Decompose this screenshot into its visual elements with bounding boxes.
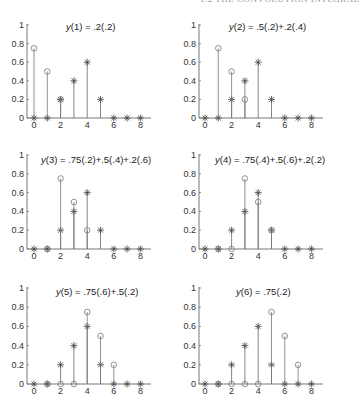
star-marker <box>57 361 64 368</box>
star-marker <box>241 342 248 349</box>
star-marker <box>31 381 38 388</box>
x-tick-label: 2 <box>58 386 63 396</box>
star-marker <box>84 59 91 66</box>
y-tick-label: 0.8 <box>183 169 196 179</box>
y-tick-label: 0.4 <box>183 341 196 351</box>
stem-plot-2: 00.20.40.60.8102468y(2) = .5(.2)+.2(.4) <box>183 20 323 130</box>
star-marker <box>97 227 104 234</box>
y-tick-label: 0.8 <box>183 302 196 312</box>
stem-plot-3: 00.20.40.60.8102468y(3) = .75(.2)+.5(.4)… <box>11 150 151 261</box>
star-marker <box>228 227 235 234</box>
y-tick-label: 1 <box>19 283 24 293</box>
x-tick-label: 4 <box>85 386 90 396</box>
star-marker <box>84 189 91 196</box>
star-marker <box>137 115 144 122</box>
x-tick-label: 4 <box>256 251 261 261</box>
y-tick-label: 0.4 <box>183 76 196 86</box>
stem-plot-6: 00.20.40.60.8102468y(6) = .75(.2) <box>183 283 323 396</box>
star-marker <box>228 361 235 368</box>
star-marker <box>110 115 117 122</box>
y-tick-label: 0.4 <box>11 206 24 216</box>
y-tick-label: 0 <box>191 244 196 254</box>
plot-title: y(3) = .75(.2)+.5(.4)+.2(.6) <box>40 154 151 165</box>
star-marker <box>31 246 38 253</box>
star-marker <box>124 381 131 388</box>
star-marker <box>137 246 144 253</box>
y-tick-label: 0.2 <box>183 94 196 104</box>
star-marker <box>241 77 248 84</box>
plot-title: y(1) = .2(.2) <box>65 21 115 32</box>
y-tick-label: 1 <box>191 20 196 30</box>
y-tick-label: 0 <box>19 244 24 254</box>
x-tick-label: 4 <box>85 120 90 130</box>
star-marker <box>124 246 131 253</box>
y-tick-label: 0.8 <box>11 302 24 312</box>
y-tick-label: 0.6 <box>11 57 24 67</box>
y-tick-label: 1 <box>191 150 196 160</box>
plot-title: y(5) = .75(.6)+.5(.2) <box>55 286 138 297</box>
x-tick-label: 4 <box>85 251 90 261</box>
star-marker <box>137 381 144 388</box>
star-marker <box>110 246 117 253</box>
star-marker <box>295 115 302 122</box>
y-tick-label: 0.2 <box>11 94 24 104</box>
y-tick-label: 0.8 <box>11 39 24 49</box>
y-tick-label: 0 <box>19 113 24 123</box>
y-tick-label: 0.6 <box>11 188 24 198</box>
plot-title: y(6) = .75(.2) <box>235 286 291 297</box>
y-tick-label: 0.8 <box>183 39 196 49</box>
y-tick-label: 0 <box>191 113 196 123</box>
y-tick-label: 1 <box>19 150 24 160</box>
y-tick-label: 0.8 <box>11 169 24 179</box>
y-tick-label: 0.2 <box>183 360 196 370</box>
x-tick-label: 2 <box>58 251 63 261</box>
x-tick-label: 2 <box>229 120 234 130</box>
star-marker <box>268 96 275 103</box>
stem-plot-5: 00.20.40.60.8102468y(5) = .75(.6)+.5(.2) <box>11 283 151 396</box>
star-marker <box>255 189 262 196</box>
y-tick-label: 0.6 <box>183 57 196 67</box>
star-marker <box>97 96 104 103</box>
stem-plot-1: 00.20.40.60.8102468y(1) = .2(.2) <box>11 20 151 130</box>
x-tick-label: 2 <box>229 386 234 396</box>
x-tick-label: 2 <box>229 251 234 261</box>
y-tick-label: 0.6 <box>183 188 196 198</box>
x-tick-label: 2 <box>58 120 63 130</box>
plot-title: y(4) = .75(.4)+.5(.6)+.2(.2) <box>214 154 325 165</box>
y-tick-label: 0.6 <box>183 321 196 331</box>
x-tick-label: 4 <box>256 120 261 130</box>
star-marker <box>255 323 262 330</box>
y-tick-label: 0.4 <box>11 76 24 86</box>
y-tick-label: 0.2 <box>183 225 196 235</box>
y-tick-label: 1 <box>19 20 24 30</box>
y-tick-label: 1 <box>191 283 196 293</box>
y-tick-label: 0.2 <box>11 360 24 370</box>
star-marker <box>295 246 302 253</box>
y-tick-label: 0.4 <box>183 206 196 216</box>
star-marker <box>70 77 77 84</box>
star-marker <box>202 246 209 253</box>
star-marker <box>202 381 209 388</box>
y-tick-label: 0.6 <box>11 321 24 331</box>
star-marker <box>255 59 262 66</box>
star-marker <box>70 342 77 349</box>
y-tick-label: 0.4 <box>11 341 24 351</box>
y-tick-label: 0.2 <box>11 225 24 235</box>
star-marker <box>202 115 209 122</box>
plot-title: y(2) = .5(.2)+.2(.4) <box>228 21 306 32</box>
y-tick-label: 0 <box>191 379 196 389</box>
star-marker <box>124 115 131 122</box>
x-tick-label: 4 <box>256 386 261 396</box>
stem-plot-4: 00.20.40.60.8102468y(4) = .75(.4)+.5(.6)… <box>183 150 325 261</box>
y-tick-label: 0 <box>19 379 24 389</box>
